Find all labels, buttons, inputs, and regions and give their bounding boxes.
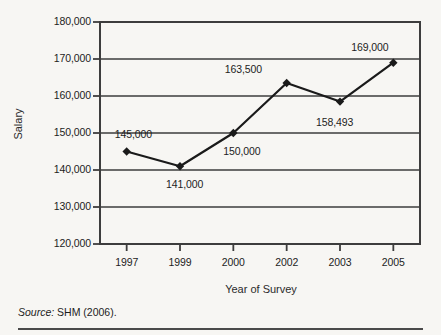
source-label: Source: [18,306,54,318]
source-value: SHM (2006). [57,306,117,318]
x-tick-label: 2002 [259,256,315,268]
data-point-label: 150,000 [223,145,260,157]
data-point-label: 158,493 [316,116,353,128]
footer-divider [18,328,423,330]
x-tick-label: 2005 [365,256,421,268]
y-tick-label: 170,000 [17,52,91,64]
data-point-label: 145,000 [115,128,152,140]
data-point-marker [122,147,130,155]
y-tick-label: 160,000 [17,89,91,101]
x-tick-label: 2003 [312,256,368,268]
x-tick-label: 1999 [152,256,208,268]
data-point-label: 141,000 [166,178,203,190]
y-tick-label: 150,000 [17,126,91,138]
y-tick-label: 140,000 [17,163,91,175]
data-point-label: 163,500 [225,63,262,75]
source-note: Source: SHM (2006). [18,306,117,318]
x-tick-label: 1997 [99,256,155,268]
y-tick-label: 180,000 [17,15,91,27]
data-point-label: 169,000 [351,41,388,53]
y-tick-label: 130,000 [17,200,91,212]
y-tick-label: 120,000 [17,237,91,249]
x-tick-label: 2000 [205,256,261,268]
figure-container: Salary Year of Survey Source: SHM (2006)… [0,0,441,335]
